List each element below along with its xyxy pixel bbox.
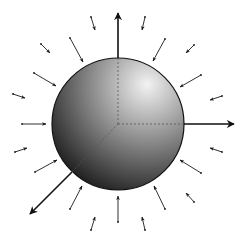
field-arrow-tail-dot bbox=[117, 221, 119, 223]
field-arrow-0 bbox=[91, 17, 95, 30]
field-arrow-tail-dot bbox=[200, 74, 202, 76]
field-arrow-tail-dot bbox=[14, 151, 16, 153]
field-arrow-tail-dot bbox=[164, 208, 166, 210]
field-arrow-4 bbox=[13, 94, 25, 98]
field-arrow-tail-dot bbox=[221, 95, 223, 97]
field-arrow-7 bbox=[35, 160, 57, 172]
field-arrow-tail-dot bbox=[193, 44, 195, 46]
field-arrow-8 bbox=[70, 186, 82, 209]
field-arrow-14 bbox=[180, 160, 201, 173]
field-arrow-tail-dot bbox=[193, 201, 195, 203]
field-arrow-20 bbox=[142, 17, 145, 30]
field-arrow-tail-dot bbox=[21, 123, 23, 125]
field-arrow-tail-dot bbox=[40, 43, 42, 45]
field-arrow-tail-dot bbox=[33, 72, 35, 74]
field-arrow-13 bbox=[186, 193, 194, 202]
field-arrow-tail-dot bbox=[144, 16, 146, 18]
field-arrow-tail-dot bbox=[200, 172, 202, 174]
field-arrow-3 bbox=[34, 73, 56, 86]
field-arrow-tail-dot bbox=[90, 16, 92, 18]
field-arrow-16 bbox=[210, 96, 222, 100]
field-arrow-17 bbox=[180, 75, 201, 87]
field-arrow-6 bbox=[15, 148, 27, 152]
diagram-canvas bbox=[0, 0, 244, 242]
field-arrow-tail-dot bbox=[164, 38, 166, 40]
field-arrow-tail-dot bbox=[90, 229, 92, 231]
field-arrow-15 bbox=[210, 148, 222, 152]
x-axis-arrow bbox=[30, 172, 72, 214]
field-arrow-tail-dot bbox=[69, 208, 71, 210]
field-arrow-9 bbox=[91, 217, 95, 230]
field-arrow-tail-dot bbox=[69, 37, 71, 39]
field-arrow-tail-dot bbox=[221, 151, 223, 153]
field-arrow-12 bbox=[154, 186, 165, 209]
field-arrow-2 bbox=[41, 44, 50, 53]
field-arrow-1 bbox=[70, 38, 83, 62]
field-arrow-11 bbox=[142, 217, 145, 230]
field-arrow-tail-dot bbox=[12, 93, 14, 95]
field-arrow-19 bbox=[153, 39, 165, 61]
field-arrow-tail-dot bbox=[144, 229, 146, 231]
field-arrow-tail-dot bbox=[34, 171, 36, 173]
field-arrow-18 bbox=[186, 45, 194, 53]
sphere-field-diagram bbox=[0, 0, 244, 242]
